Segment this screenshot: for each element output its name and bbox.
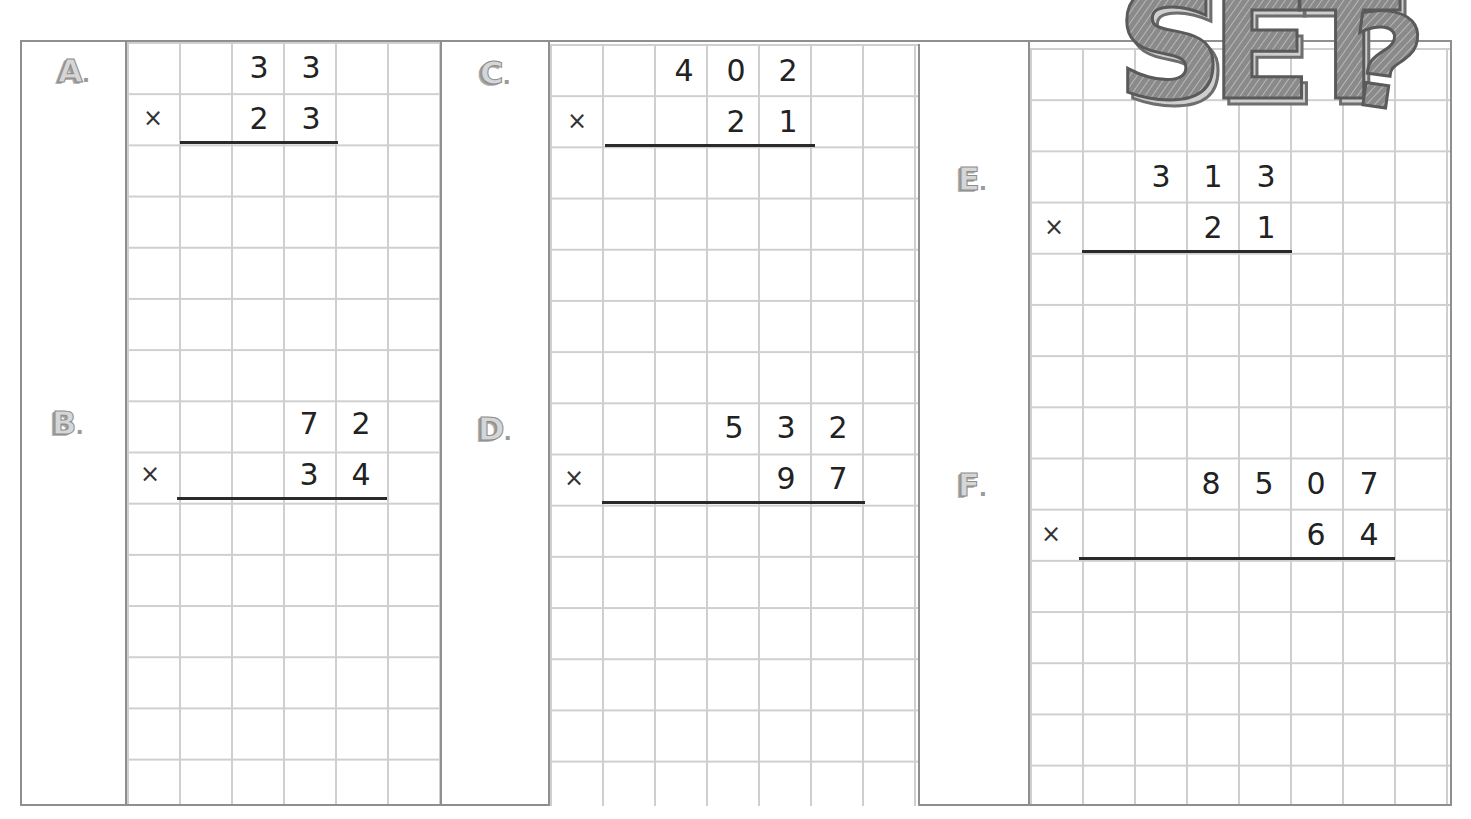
problem-label-b: B. [52, 404, 83, 442]
digit: 5 [708, 402, 760, 453]
multiply-sign: × [1025, 509, 1077, 560]
answer-line [177, 497, 387, 500]
digit: 7 [812, 453, 864, 504]
digit: 7 [1343, 458, 1395, 509]
digit: 4 [335, 449, 387, 500]
digit: 3 [283, 449, 335, 500]
digit: 0 [710, 45, 762, 96]
digit: 2 [233, 93, 285, 144]
digit: 3 [1135, 151, 1187, 202]
digit: 1 [1240, 202, 1292, 253]
digit: 3 [285, 42, 337, 93]
answer-line [1079, 557, 1395, 560]
digit: 2 [812, 402, 864, 453]
multiply-sign: × [127, 93, 179, 144]
digit: 8 [1185, 458, 1237, 509]
multiply-sign: × [548, 453, 600, 504]
multiply-sign: × [1028, 202, 1080, 253]
digit: 3 [760, 402, 812, 453]
digit: 2 [710, 96, 762, 147]
digit: 6 [1290, 509, 1342, 560]
problem-label-e: E. [958, 160, 986, 198]
digit: 0 [1290, 458, 1342, 509]
digit: 5 [1238, 458, 1290, 509]
multiply-sign: × [124, 449, 176, 500]
digit: 9 [760, 453, 812, 504]
digit: 2 [1187, 202, 1239, 253]
answer-line [1082, 250, 1292, 253]
digit: 4 [1343, 509, 1395, 560]
label-column-2: C. D. [442, 42, 550, 804]
digit: 7 [283, 398, 335, 449]
digit: 2 [762, 45, 814, 96]
answer-line [180, 141, 338, 144]
digit: 3 [1240, 151, 1292, 202]
problem-label-a: A. [58, 52, 89, 90]
digit: 2 [335, 398, 387, 449]
label-column-3: E. F. [920, 42, 1030, 804]
multiply-sign: × [551, 96, 603, 147]
problem-label-f: F. [958, 466, 986, 504]
label-column-1: A. B. [22, 42, 127, 804]
digit: 3 [285, 93, 337, 144]
problem-label-d: D. [478, 410, 511, 448]
problem-label-c: C. [480, 54, 510, 92]
title-art-set: SET SET ? [1108, 0, 1453, 140]
answer-line [605, 144, 815, 147]
digit: 3 [233, 42, 285, 93]
digit: 4 [658, 45, 710, 96]
digit: 1 [1187, 151, 1239, 202]
digit: 1 [762, 96, 814, 147]
answer-line [602, 501, 865, 504]
